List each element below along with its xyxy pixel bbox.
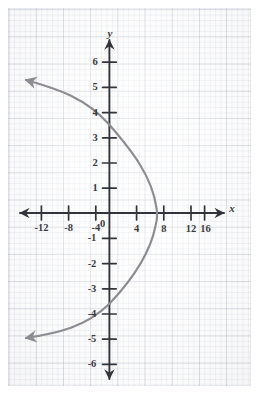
parabola-curve	[26, 80, 157, 338]
origin-label: 0	[100, 219, 105, 230]
x-axis-label: x	[229, 203, 235, 214]
graph-figure: -12 -8 -4 0 4 8 12 16 6 5 4 3 2 1 -1 -2 …	[0, 0, 259, 394]
y-tick-label--6: -6	[88, 359, 97, 370]
x-tick-label-16: 16	[200, 224, 211, 235]
x-tick-label--8: -8	[64, 223, 73, 234]
x-tick-label--12: -12	[34, 223, 48, 234]
y-tick-label-5: 5	[92, 82, 97, 93]
coordinate-plane	[0, 0, 259, 394]
y-tick-label-3: 3	[92, 133, 97, 144]
x-tick-label-4: 4	[134, 224, 139, 235]
y-tick-label--1: -1	[88, 233, 97, 244]
y-tick-label-6: 6	[92, 57, 97, 68]
y-axis	[103, 40, 117, 379]
y-tick-label-4: 4	[92, 107, 97, 118]
x-tick-label-8: 8	[161, 224, 166, 235]
y-tick-label--3: -3	[88, 284, 97, 295]
x-tick-label-12: 12	[186, 224, 197, 235]
y-tick-label--5: -5	[88, 334, 97, 345]
y-axis-label: y	[108, 28, 113, 39]
y-tick-label-1: 1	[92, 183, 97, 194]
y-tick-label-2: 2	[92, 158, 97, 169]
parabola-path	[26, 80, 157, 338]
y-tick-label--4: -4	[88, 309, 97, 320]
x-axis	[20, 206, 224, 220]
y-tick-label--2: -2	[88, 258, 97, 269]
